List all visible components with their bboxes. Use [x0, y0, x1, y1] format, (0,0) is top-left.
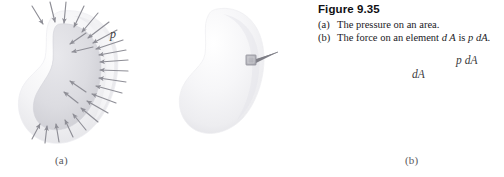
figure-page: p (a) [0, 0, 504, 177]
figure-caption-title: Figure 9.35 [318, 2, 504, 16]
caption-marker-a: (a) [318, 18, 337, 31]
pressure-symbol-label: p [110, 27, 116, 42]
pressure-arrow [32, 6, 43, 24]
caption-b-post: . [488, 32, 491, 43]
caption-b-symbol-dA: d A [442, 32, 456, 43]
pressure-on-area-diagram [0, 0, 170, 150]
panel-b-sublabel: (b) [405, 154, 418, 166]
panel-a-sublabel: (a) [55, 154, 68, 166]
area-element-dA [246, 55, 256, 65]
caption-marker-b: (b) [318, 31, 337, 44]
caption-line-a: (a) The pressure on an area. [318, 18, 504, 31]
caption-b-symbol-pdA: p dA [468, 32, 488, 43]
caption-b-mid: is [456, 32, 468, 43]
caption-line-b: (b) The force on an element d A is p dA. [318, 31, 504, 44]
caption-text-b: The force on an element d A is p dA. [337, 31, 490, 44]
figure-panel-b: dA p dA (b) [175, 0, 315, 177]
figure-panel-a: p (a) [0, 0, 170, 177]
body-surface [179, 8, 264, 133]
caption-text-a: The pressure on an area. [337, 18, 439, 31]
force-on-element-diagram [175, 0, 315, 150]
area-element-label: dA [412, 68, 425, 80]
figure-caption: Figure 9.35 (a) The pressure on an area.… [318, 2, 504, 44]
caption-b-pre: The force on an element [337, 32, 442, 43]
force-label: p dA [456, 54, 477, 66]
